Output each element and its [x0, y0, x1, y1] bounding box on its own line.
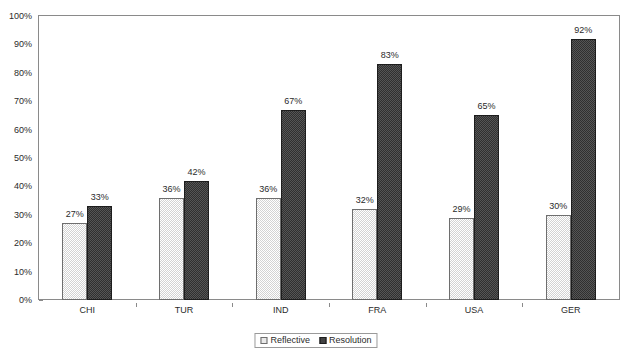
legend-item-reflective[interactable]: Reflective: [260, 336, 310, 345]
bar-tur-reflective: 36%: [159, 198, 184, 300]
bar-chi-resolution: 33%: [87, 206, 112, 300]
x-tick-mark: [232, 303, 233, 307]
bar-fra-resolution: 83%: [377, 64, 402, 300]
bar-group: 36%42%: [136, 16, 233, 300]
y-tick-label: 0%: [19, 296, 32, 305]
bar-value-label: 67%: [284, 97, 302, 106]
y-tick-label: 40%: [14, 182, 32, 191]
y-tick-label: 50%: [14, 154, 32, 163]
y-tick-label: 10%: [14, 267, 32, 276]
y-axis: 0%10%20%30%40%50%60%70%80%90%100%: [0, 0, 38, 316]
x-tick-mark: [426, 303, 427, 307]
bar-tur-resolution: 42%: [184, 181, 209, 300]
y-tick-label: 60%: [14, 125, 32, 134]
y-tick-label: 80%: [14, 68, 32, 77]
x-tick-mark: [329, 303, 330, 307]
legend-label: Reflective: [270, 336, 310, 345]
bar-group: 36%67%: [232, 16, 329, 300]
bar-group: 27%33%: [39, 16, 136, 300]
bar-value-label: 36%: [259, 185, 277, 194]
y-tick-label: 30%: [14, 210, 32, 219]
legend-item-resolution[interactable]: Resolution: [319, 336, 372, 345]
bar-usa-resolution: 65%: [474, 115, 499, 300]
x-tick-mark: [522, 303, 523, 307]
bar-ger-resolution: 92%: [571, 39, 596, 300]
legend-label: Resolution: [329, 336, 372, 345]
x-tick-label-ger: GER: [561, 306, 581, 315]
x-tick-label-usa: USA: [465, 306, 484, 315]
y-tick-label: 90%: [14, 40, 32, 49]
plot-area: 27%33%36%42%36%67%32%83%29%65%30%92%: [39, 16, 619, 300]
bar-chart: 0%10%20%30%40%50%60%70%80%90%100% 27%33%…: [0, 0, 632, 355]
legend-swatch-icon: [260, 337, 267, 344]
x-tick-label-fra: FRA: [368, 306, 386, 315]
bar-value-label: 83%: [381, 51, 399, 60]
bar-value-label: 29%: [452, 205, 470, 214]
bar-value-label: 36%: [162, 185, 180, 194]
bar-ger-reflective: 30%: [546, 215, 571, 300]
bar-value-label: 92%: [574, 26, 592, 35]
x-tick-label-ind: IND: [273, 306, 289, 315]
bar-value-label: 30%: [549, 202, 567, 211]
y-tick-label: 70%: [14, 97, 32, 106]
x-tick-label-chi: CHI: [80, 306, 96, 315]
x-tick-mark: [136, 303, 137, 307]
bar-fra-reflective: 32%: [352, 209, 377, 300]
bar-group: 32%83%: [329, 16, 426, 300]
bar-value-label: 42%: [187, 168, 205, 177]
bar-value-label: 32%: [356, 196, 374, 205]
bar-group: 30%92%: [522, 16, 619, 300]
bar-group: 29%65%: [426, 16, 523, 300]
bar-chi-reflective: 27%: [62, 223, 87, 300]
chart-legend: ReflectiveResolution: [254, 333, 377, 348]
y-tick-mark: [39, 300, 43, 301]
legend-swatch-icon: [319, 337, 326, 344]
bar-ind-resolution: 67%: [281, 110, 306, 300]
y-tick-label: 20%: [14, 239, 32, 248]
bar-value-label: 33%: [91, 193, 109, 202]
bar-ind-reflective: 36%: [256, 198, 281, 300]
bar-value-label: 27%: [66, 210, 84, 219]
x-axis: CHITURINDFRAUSAGER: [39, 303, 619, 321]
bar-usa-reflective: 29%: [449, 218, 474, 300]
y-tick-label: 100%: [9, 12, 32, 21]
bar-value-label: 65%: [477, 102, 495, 111]
x-tick-label-tur: TUR: [175, 306, 194, 315]
